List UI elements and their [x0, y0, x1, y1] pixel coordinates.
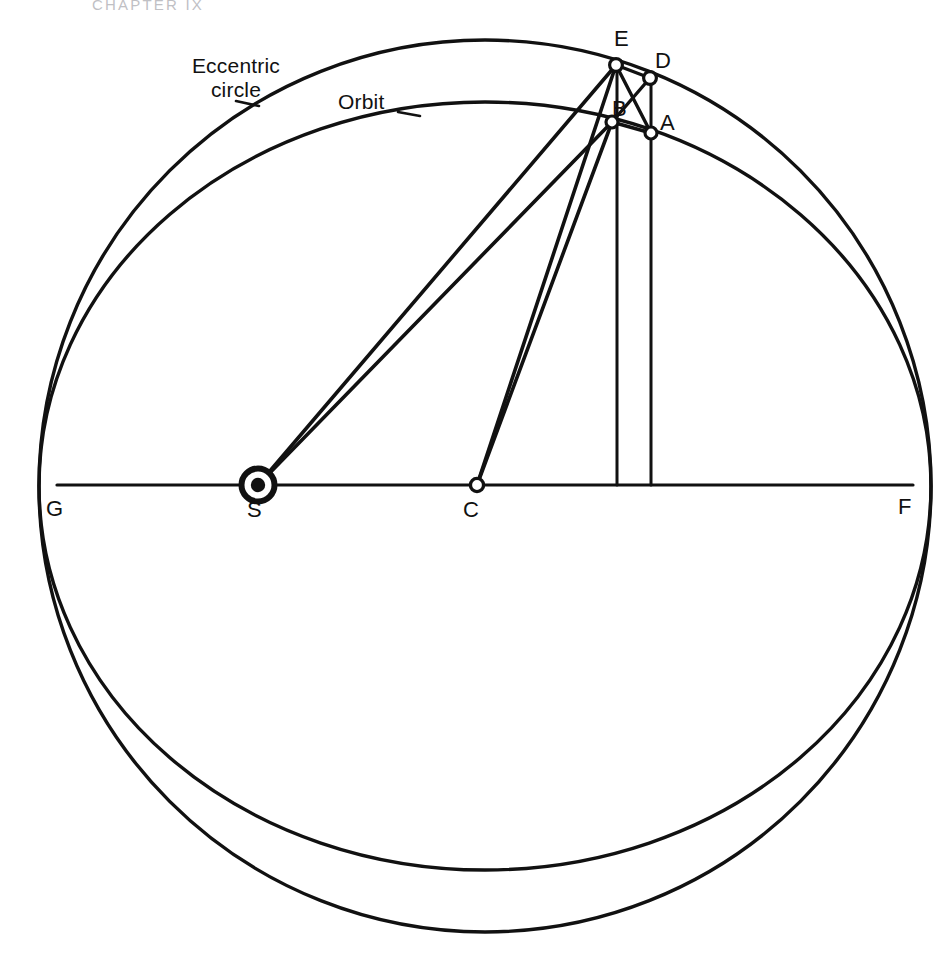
- eccentric-circle-orbit-diagram: [0, 0, 948, 971]
- point-label-s: S: [247, 497, 262, 523]
- orbit-label: Orbit: [338, 90, 385, 114]
- segment-s-to-e: [258, 65, 616, 485]
- point-label-g: G: [46, 496, 63, 522]
- point-label-f: F: [898, 494, 911, 520]
- point-label-c: C: [463, 497, 479, 523]
- point-label-d: D: [655, 48, 671, 74]
- segment-c-to-b: [477, 122, 612, 485]
- segment-c-to-e: [477, 65, 616, 485]
- sun-icon-core: [251, 478, 265, 492]
- point-label-b: B: [612, 96, 627, 122]
- eccentric-circle-label: Eccentric circle: [174, 54, 298, 101]
- point-marker-a: [645, 127, 657, 139]
- eccentric-circle-label-line2: circle: [174, 78, 298, 102]
- point-label-a: A: [660, 110, 675, 136]
- point-marker-e: [610, 59, 623, 72]
- eccentric-circle-label-line1: Eccentric: [174, 54, 298, 78]
- figure-page: CHAPTER IX: [0, 0, 948, 971]
- point-marker-c: [470, 478, 483, 491]
- leader-orbit-label: [398, 112, 420, 116]
- segment-s-to-b: [258, 122, 612, 485]
- point-label-e: E: [614, 26, 629, 52]
